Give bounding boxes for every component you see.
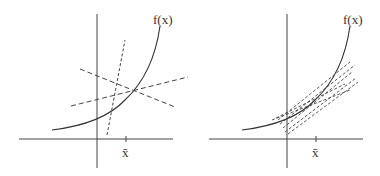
left-fx-label: f(x) bbox=[153, 12, 173, 27]
right-fx-label: f(x) bbox=[343, 12, 363, 27]
left-dashed-line-shallow bbox=[71, 77, 188, 106]
left-panel: f(x) x̄ bbox=[19, 12, 188, 168]
left-curve-fx bbox=[52, 26, 160, 130]
right-curve-fx bbox=[242, 26, 350, 130]
left-dashed-line-steep bbox=[107, 40, 125, 135]
diagram-canvas: f(x) x̄ f(x) x̄ bbox=[0, 0, 380, 176]
left-dashed-line-negative bbox=[80, 69, 175, 107]
right-panel: f(x) x̄ bbox=[209, 12, 363, 168]
right-dashed-bundle bbox=[272, 62, 358, 134]
left-xbar-label: x̄ bbox=[122, 145, 129, 160]
right-xbar-label: x̄ bbox=[312, 145, 319, 160]
